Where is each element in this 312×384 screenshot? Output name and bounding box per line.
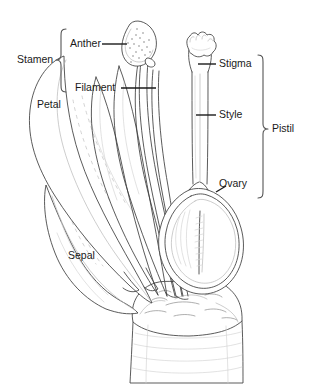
inner-petal-shade-2 — [123, 82, 139, 194]
label-anther: Anther — [70, 37, 101, 49]
pollen-grain — [148, 39, 149, 40]
label-ovary: Ovary — [219, 177, 248, 189]
pollen-grain — [132, 55, 133, 56]
inner-petal-shade-1 — [100, 90, 117, 200]
stem-ring-2 — [134, 343, 241, 349]
pollen-grain — [130, 61, 131, 62]
label-pistil: Pistil — [272, 122, 294, 134]
pollen-grain — [149, 51, 150, 52]
style-shade — [195, 76, 196, 178]
stem-ring-4 — [132, 367, 242, 373]
pollen-grain — [129, 47, 130, 48]
flower-diagram-canvas: Stamen Anther Filament Petal Sepal Stigm… — [0, 0, 312, 384]
pistil-bracket — [258, 55, 268, 198]
pollen-grain — [135, 51, 136, 52]
pollen-grain — [133, 43, 134, 44]
anther-connective — [145, 58, 155, 67]
flower-anatomy-diagram: Stamen Anther Filament Petal Sepal Stigm… — [0, 0, 312, 384]
stem-edge-right — [226, 326, 228, 383]
pollen-grain — [131, 38, 132, 39]
pollen-grain — [127, 42, 128, 43]
pollen-grain — [141, 49, 142, 50]
style-right-wall — [207, 72, 208, 184]
pollen-grain — [143, 41, 144, 42]
label-stamen: Stamen — [17, 53, 53, 65]
label-stigma: Stigma — [219, 57, 252, 69]
stigma-outline — [187, 32, 216, 57]
label-petal: Petal — [37, 98, 61, 110]
pollen-grain — [142, 32, 143, 33]
label-style: Style — [219, 108, 243, 120]
label-sepal: Sepal — [68, 249, 95, 261]
stem-edge-left — [146, 325, 148, 383]
pollen-grain — [146, 46, 147, 47]
pollen-grain — [136, 28, 137, 29]
pollen-grain — [139, 37, 140, 38]
label-filament: Filament — [75, 81, 115, 93]
stigma-group — [187, 32, 216, 57]
petal-outline — [29, 56, 152, 303]
pollen-grain — [144, 54, 145, 55]
stem-ring-3 — [133, 355, 242, 361]
style-group — [189, 50, 212, 184]
style-left-wall — [192, 72, 193, 184]
pollen-grain — [138, 57, 139, 58]
ovary-group — [159, 182, 244, 294]
petal-group — [29, 56, 152, 303]
pollen-grain — [138, 45, 139, 46]
pollen-grain — [135, 34, 136, 35]
